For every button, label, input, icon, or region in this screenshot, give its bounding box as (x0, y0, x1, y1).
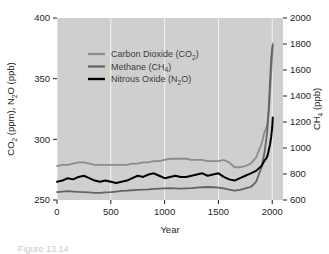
svg-text:CH4 (ppb): CH4 (ppb) (311, 88, 324, 130)
right-tick-label-1400: 1400 (290, 90, 311, 101)
x-tick-label-2000: 2000 (262, 206, 283, 217)
right-tick-label-800: 800 (290, 168, 306, 179)
x-tick-label-500: 500 (103, 206, 119, 217)
right-tick-label-1800: 1800 (290, 38, 311, 49)
right-tick-label-1000: 1000 (290, 142, 311, 153)
right-tick-label-1600: 1600 (290, 64, 311, 75)
right-tick-label-600: 600 (290, 194, 306, 205)
right-axis-title: CH4 (ppb) (311, 88, 324, 130)
left-axis: 250300350400 (34, 12, 57, 205)
left-tick-label-300: 300 (34, 134, 50, 145)
plot-background (57, 18, 283, 200)
greenhouse-gas-concentration-chart: 250300350400 600800100012001400160018002… (0, 0, 329, 254)
left-axis-title: CO2 (ppm), N2O (ppb) (5, 62, 18, 155)
x-tick-label-0: 0 (54, 206, 59, 217)
right-axis: 600800100012001400160018002000 (283, 12, 311, 205)
left-tick-label-250: 250 (34, 194, 50, 205)
legend-label-1: Carbon Dioxide (CO2) (111, 49, 199, 61)
figure-caption: Figure 13.14 (18, 245, 69, 254)
right-tick-label-2000: 2000 (290, 12, 311, 23)
legend-label-2: Methane (CH4) (111, 62, 171, 74)
x-axis-title: Year (160, 224, 179, 235)
left-tick-label-350: 350 (34, 73, 50, 84)
figure-container: 250300350400 600800100012001400160018002… (0, 0, 329, 254)
svg-text:CO2 (ppm), N2O (ppb): CO2 (ppm), N2O (ppb) (5, 62, 18, 155)
right-tick-label-1200: 1200 (290, 116, 311, 127)
x-tick-label-1000: 1000 (154, 206, 175, 217)
left-tick-label-400: 400 (34, 12, 50, 23)
figure-caption-strip: Figure 13.14 (0, 245, 329, 254)
x-tick-label-1500: 1500 (208, 206, 229, 217)
bottom-axis: 0500100015002000 (54, 200, 282, 217)
